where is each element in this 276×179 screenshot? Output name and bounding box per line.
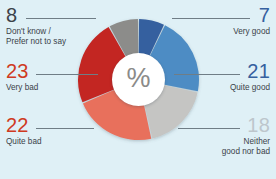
- leader-line-very-bad: [36, 74, 98, 75]
- donut-chart-figure: % 8 Don't know / Prefer not to say 23 Ve…: [0, 0, 276, 179]
- callout-label-very-bad: Very bad: [6, 83, 38, 93]
- callout-quite-good: 21 Quite good: [230, 62, 270, 93]
- callout-quite-bad: 22 Quite bad: [6, 116, 42, 147]
- callout-label-quite-bad: Quite bad: [6, 137, 42, 147]
- callout-label-quite-good: Quite good: [230, 83, 270, 93]
- percent-symbol-icon: %: [126, 65, 150, 92]
- callout-label-very-good: Very good: [233, 27, 270, 37]
- callout-label-neither: Neither good nor bad: [222, 137, 270, 157]
- callout-very-bad: 23 Very bad: [6, 62, 38, 93]
- donut-center-hub: %: [112, 53, 165, 106]
- callout-value-dont-know: 8: [6, 6, 66, 25]
- callout-value-very-good: 7: [233, 6, 270, 25]
- callout-value-neither: 18: [222, 116, 270, 135]
- callout-value-quite-bad: 22: [6, 116, 42, 135]
- callout-label-dont-know: Don't know / Prefer not to say: [6, 27, 66, 47]
- callout-value-very-bad: 23: [6, 62, 38, 81]
- callout-very-good: 7 Very good: [233, 6, 270, 37]
- callout-dont-know: 8 Don't know / Prefer not to say: [6, 6, 66, 47]
- callout-neither: 18 Neither good nor bad: [222, 116, 270, 157]
- leader-line-quite-bad: [36, 128, 94, 129]
- donut-chart: %: [78, 19, 199, 140]
- callout-value-quite-good: 21: [230, 62, 270, 81]
